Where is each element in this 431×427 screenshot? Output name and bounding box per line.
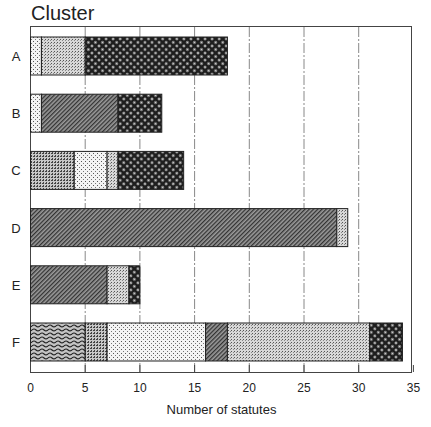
bar-C: [31, 151, 184, 189]
x-axis-label-wrap: Number of statutes: [0, 402, 431, 417]
bar-E: [31, 266, 140, 304]
x-tick-label: 25: [297, 381, 311, 395]
y-tick-label: B: [12, 106, 21, 121]
bar-B: [31, 94, 162, 132]
bar-segment: [118, 94, 162, 132]
stacked-bar-chart: ABCDEF 05101520253035: [0, 0, 431, 427]
bar-segment: [107, 151, 118, 189]
y-axis-labels: ABCDEF: [11, 49, 20, 350]
bar-segment: [41, 37, 85, 75]
plot-frame: [31, 27, 412, 373]
bar-segment: [31, 323, 86, 361]
bar-segment: [107, 266, 129, 304]
x-axis-ticks: 05101520253035: [27, 365, 420, 395]
x-tick-label: 10: [133, 381, 147, 395]
bar-segment: [129, 266, 140, 304]
x-tick-label: 15: [188, 381, 202, 395]
bar-segment: [31, 209, 337, 247]
bar-segment: [31, 37, 42, 75]
x-axis-label: Number of statutes: [167, 402, 277, 417]
bar-segment: [41, 94, 118, 132]
bar-segment: [85, 37, 227, 75]
bar-segment: [85, 323, 107, 361]
x-tick-label: 5: [82, 381, 89, 395]
y-tick-label: D: [11, 221, 20, 236]
bar-segment: [107, 323, 205, 361]
bar-segment: [31, 151, 75, 189]
y-tick-label: A: [12, 49, 21, 64]
bar-segment: [31, 94, 42, 132]
x-tick-label: 0: [27, 381, 34, 395]
bar-segment: [206, 323, 228, 361]
bar-segment: [337, 209, 348, 247]
bar-A: [31, 37, 228, 75]
gridlines: [85, 27, 359, 372]
x-tick-label: 20: [243, 381, 257, 395]
x-tick-label: 35: [407, 381, 421, 395]
bar-segment: [31, 266, 108, 304]
bar-segment: [118, 151, 184, 189]
x-tick-label: 30: [352, 381, 366, 395]
bar-F: [31, 323, 403, 361]
bars: [31, 37, 403, 361]
y-tick-label: F: [12, 335, 20, 350]
bar-segment: [370, 323, 403, 361]
y-tick-label: E: [12, 278, 21, 293]
bar-D: [31, 209, 348, 247]
y-tick-label: C: [11, 163, 20, 178]
bar-segment: [74, 151, 107, 189]
bar-segment: [227, 323, 369, 361]
